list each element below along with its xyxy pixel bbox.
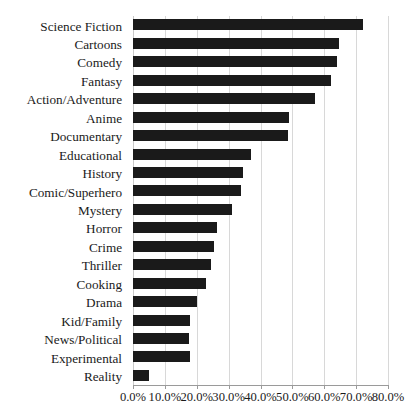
category-label: Anime (0, 112, 122, 125)
x-tick-10 (165, 385, 166, 389)
x-tick-0 (133, 385, 134, 389)
bar-row (133, 311, 388, 329)
bar-row (133, 256, 388, 274)
x-tick-40 (261, 385, 262, 389)
category-label: Crime (0, 241, 122, 254)
bar-row (133, 145, 388, 163)
bar (133, 130, 288, 141)
category-label: Comedy (0, 56, 122, 69)
bar (133, 112, 289, 123)
bar (133, 185, 241, 196)
category-label: Drama (0, 296, 122, 309)
bar (133, 167, 243, 178)
category-label: History (0, 167, 122, 180)
category-label: Comic/Superhero (0, 186, 122, 199)
category-label: Documentary (0, 130, 122, 143)
category-label: Cooking (0, 278, 122, 291)
x-tick-80 (388, 385, 389, 389)
category-label: Fantasy (0, 75, 122, 88)
bar (133, 370, 149, 381)
bar (133, 351, 190, 362)
category-label: Experimental (0, 352, 122, 365)
x-tick-50 (292, 385, 293, 389)
bar (133, 241, 214, 252)
bar-row (133, 182, 388, 200)
bar (133, 259, 211, 270)
bar-chart: Science FictionCartoonsComedyFantasyActi… (0, 0, 416, 417)
bar-row (133, 201, 388, 219)
category-label: Mystery (0, 204, 122, 217)
category-label: Science Fiction (0, 20, 122, 33)
bar-row (133, 348, 388, 366)
bar-row (133, 16, 388, 34)
category-label: Horror (0, 222, 122, 235)
bar (133, 222, 217, 233)
bar-row (133, 367, 388, 385)
bar-row (133, 53, 388, 71)
x-tick-70 (356, 385, 357, 389)
x-tick-20 (197, 385, 198, 389)
x-tick-60 (324, 385, 325, 389)
category-label: Educational (0, 149, 122, 162)
bar (133, 93, 315, 104)
bar (133, 204, 232, 215)
category-label: Kid/Family (0, 315, 122, 328)
bar-row (133, 164, 388, 182)
bar-row (133, 237, 388, 255)
bar-row (133, 274, 388, 292)
category-label: Action/Adventure (0, 93, 122, 106)
x-tick-30 (229, 385, 230, 389)
category-axis-labels: Science FictionCartoonsComedyFantasyActi… (0, 16, 128, 385)
bar (133, 19, 363, 30)
bar (133, 278, 206, 289)
bar (133, 333, 189, 344)
category-label: Thriller (0, 259, 122, 272)
x-tick-label: 80.0% (365, 391, 411, 404)
bar-row (133, 71, 388, 89)
bar-row (133, 108, 388, 126)
bar (133, 296, 197, 307)
bar-row (133, 90, 388, 108)
plot-area (133, 16, 388, 385)
category-label: Cartoons (0, 38, 122, 51)
category-label: Reality (0, 370, 122, 383)
bar (133, 56, 337, 67)
gridline-80 (388, 16, 389, 385)
bar-row (133, 34, 388, 52)
category-label: News/Political (0, 333, 122, 346)
bar (133, 315, 190, 326)
bar (133, 75, 331, 86)
bar (133, 38, 339, 49)
bar-row (133, 293, 388, 311)
bar-row (133, 219, 388, 237)
bar-row (133, 127, 388, 145)
bar (133, 149, 251, 160)
bar-row (133, 330, 388, 348)
